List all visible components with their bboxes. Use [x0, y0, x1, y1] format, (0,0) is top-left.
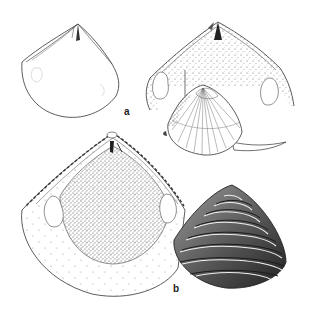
- shell-b-exterior-dark: [174, 185, 286, 288]
- shell-illustration-plate: [0, 0, 312, 316]
- shell-a-interior-outline: [22, 24, 119, 117]
- shell-b-interior-large: [22, 132, 185, 296]
- figure-label-b: b: [173, 284, 179, 294]
- figure-label-a: a: [124, 107, 130, 117]
